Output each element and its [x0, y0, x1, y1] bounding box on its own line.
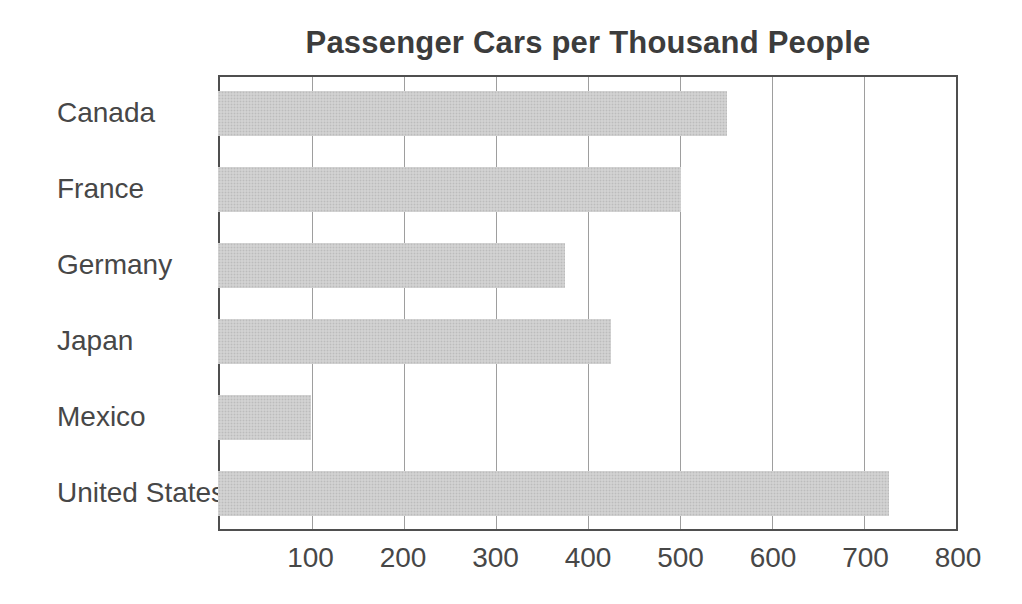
- category-label: United States: [0, 477, 218, 509]
- x-tick-label-400: 400: [565, 542, 612, 574]
- bar-zone: [218, 75, 958, 151]
- chart-row: United States: [0, 455, 958, 531]
- x-tick-label-500: 500: [657, 542, 704, 574]
- chart-row: Germany: [0, 227, 958, 303]
- bar-zone: [218, 227, 958, 303]
- category-label: Germany: [0, 249, 218, 281]
- chart-row: Japan: [0, 303, 958, 379]
- x-tick-label-800: 800: [935, 542, 982, 574]
- chart-rows: CanadaFranceGermanyJapanMexicoUnited Sta…: [0, 75, 958, 531]
- passenger-cars-bar-chart: Passenger Cars per Thousand People Canad…: [0, 0, 1022, 604]
- bar-united-states: [218, 471, 889, 516]
- category-label: Mexico: [0, 401, 218, 433]
- category-label: France: [0, 173, 218, 205]
- bar-zone: [218, 151, 958, 227]
- chart-row: Mexico: [0, 379, 958, 455]
- x-axis: 100200300400500600700800: [218, 542, 958, 576]
- category-label: Canada: [0, 97, 218, 129]
- chart-title: Passenger Cars per Thousand People: [218, 25, 958, 61]
- x-tick-label-300: 300: [472, 542, 519, 574]
- bar-zone: [218, 379, 958, 455]
- x-tick-label-200: 200: [380, 542, 427, 574]
- bar-germany: [218, 243, 565, 288]
- bar-canada: [218, 91, 727, 136]
- category-label: Japan: [0, 325, 218, 357]
- bar-japan: [218, 319, 611, 364]
- chart-row: France: [0, 151, 958, 227]
- x-tick-label-600: 600: [750, 542, 797, 574]
- bar-zone: [218, 303, 958, 379]
- chart-row: Canada: [0, 75, 958, 151]
- x-tick-label-100: 100: [287, 542, 334, 574]
- bar-france: [218, 167, 681, 212]
- x-tick-label-700: 700: [842, 542, 889, 574]
- bar-zone: [218, 455, 958, 531]
- bar-mexico: [218, 395, 311, 440]
